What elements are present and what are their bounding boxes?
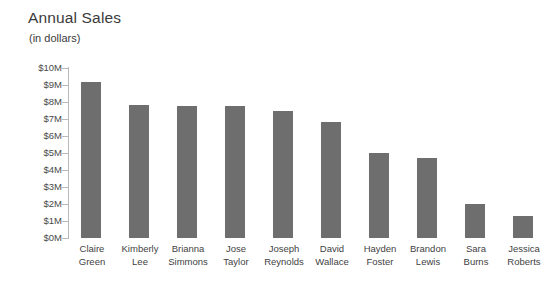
y-axis-tick-label: $0M bbox=[16, 232, 62, 243]
category-label-line: Roberts bbox=[496, 256, 552, 269]
chart-subtitle: (in dollars) bbox=[29, 32, 80, 44]
bar[interactable] bbox=[129, 105, 149, 238]
bar-slot bbox=[356, 68, 404, 238]
category-label-line: Jessica bbox=[496, 243, 552, 256]
bar-slot bbox=[164, 68, 212, 238]
y-axis-tick-label: $3M bbox=[16, 181, 62, 192]
bar-series bbox=[68, 68, 548, 238]
y-axis-tick-label: $5M bbox=[16, 147, 62, 158]
bar[interactable] bbox=[369, 153, 389, 238]
bar-slot bbox=[68, 68, 116, 238]
y-axis-tick-label: $9M bbox=[16, 79, 62, 90]
bar-slot bbox=[452, 68, 500, 238]
bar[interactable] bbox=[225, 106, 245, 238]
bar-slot bbox=[500, 68, 548, 238]
y-axis-tick bbox=[62, 238, 68, 239]
x-axis-category-label: JessicaRoberts bbox=[496, 243, 552, 268]
y-axis-tick-label: $8M bbox=[16, 96, 62, 107]
bar-slot bbox=[404, 68, 452, 238]
bar[interactable] bbox=[465, 204, 485, 238]
x-axis-category-labels: ClaireGreenKimberlyLeeBriannaSimmonsJose… bbox=[68, 243, 548, 283]
bar-slot bbox=[116, 68, 164, 238]
bar[interactable] bbox=[273, 111, 293, 239]
bar-slot bbox=[260, 68, 308, 238]
bar[interactable] bbox=[81, 82, 101, 238]
bar-slot bbox=[212, 68, 260, 238]
bar[interactable] bbox=[513, 216, 533, 238]
y-axis-tick-label: $2M bbox=[16, 198, 62, 209]
bar[interactable] bbox=[417, 158, 437, 238]
bar[interactable] bbox=[321, 122, 341, 238]
y-axis-tick-label: $6M bbox=[16, 130, 62, 141]
y-axis-tick-label: $10M bbox=[16, 62, 62, 73]
bar[interactable] bbox=[177, 106, 197, 238]
y-axis-tick-label: $1M bbox=[16, 215, 62, 226]
y-axis-tick-label: $4M bbox=[16, 164, 62, 175]
y-axis-tick-label: $7M bbox=[16, 113, 62, 124]
bar-slot bbox=[308, 68, 356, 238]
chart-title: Annual Sales bbox=[28, 9, 121, 27]
annual-sales-bar-chart: Annual Sales (in dollars) $10M$9M$8M$7M$… bbox=[0, 0, 555, 286]
